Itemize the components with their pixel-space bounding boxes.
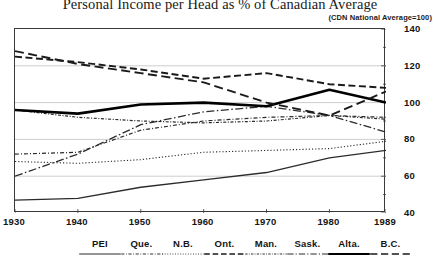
y-axis-label: 80 — [404, 133, 415, 144]
x-axis-label: 1980 — [317, 216, 339, 227]
x-axis-label: 1950 — [129, 216, 151, 227]
legend-item-bc[interactable]: B.C. — [362, 238, 420, 256]
x-axis-label: 1930 — [3, 216, 25, 227]
legend-label: B.C. — [362, 238, 420, 249]
legend-swatch — [365, 252, 417, 256]
x-axis-label: 1940 — [66, 216, 88, 227]
x-axis-label: 1960 — [192, 216, 214, 227]
chart-legend: PEIQue.N.B.Ont.Man.Sask.Alta.B.C. — [0, 238, 440, 268]
y-axis-label: 120 — [404, 59, 420, 70]
chart-container: Personal Income per Head as % of Canadia… — [0, 0, 440, 270]
x-axis-label: 1989 — [374, 216, 396, 227]
x-axis-label: 1970 — [255, 216, 277, 227]
y-axis-label: 100 — [404, 96, 420, 107]
y-axis-label: 60 — [404, 170, 415, 181]
y-axis-label: 140 — [404, 23, 420, 34]
axis-labels: 4060801001201401930194019501960197019801… — [0, 0, 440, 270]
y-axis-label: 40 — [404, 207, 415, 218]
